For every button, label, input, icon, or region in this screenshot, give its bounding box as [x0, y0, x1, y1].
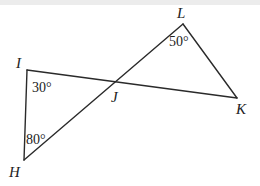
- segment-IK: [27, 70, 237, 98]
- angle-I: 30°: [32, 80, 52, 95]
- geometry-diagram: I H J L K 30° 80° 50°: [0, 0, 260, 186]
- label-I: I: [15, 55, 22, 71]
- angle-L: 50°: [169, 34, 189, 49]
- label-H: H: [8, 164, 21, 180]
- diagram-canvas: I H J L K 30° 80° 50°: [0, 0, 260, 186]
- label-J: J: [111, 89, 119, 105]
- label-K: K: [235, 101, 247, 117]
- angle-H: 80°: [26, 132, 46, 147]
- label-L: L: [176, 5, 185, 21]
- segment-LK: [183, 24, 237, 98]
